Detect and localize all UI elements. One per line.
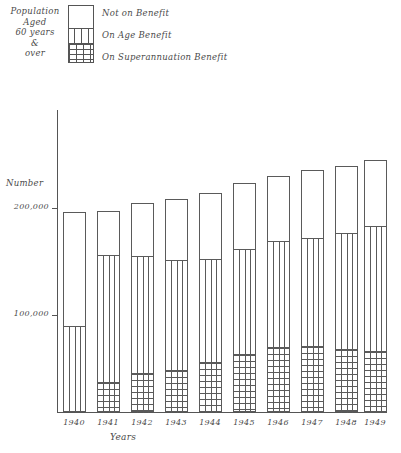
- bar-1946: [267, 176, 290, 412]
- bar-1949-segment-age-benefit: [365, 226, 386, 351]
- bar-1943-segment-superannuation-benefit: [166, 370, 187, 413]
- bar-1943-segment-age-benefit: [166, 260, 187, 370]
- x-axis-label-1949: 1949: [355, 418, 395, 427]
- bar-1948-segment-age-benefit: [336, 233, 357, 349]
- bar-1942-segment-superannuation-benefit: [132, 373, 153, 413]
- y-axis-title: Number: [6, 178, 43, 188]
- bar-1942: [131, 203, 154, 412]
- bar-1945-segment-age-benefit: [234, 249, 255, 354]
- bar-1946-segment-not-on-benefit: [268, 177, 289, 241]
- bar-1947-segment-superannuation-benefit: [302, 346, 323, 413]
- bar-1941-segment-age-benefit: [98, 255, 119, 382]
- bar-1941-segment-not-on-benefit: [98, 212, 119, 255]
- bar-1948-segment-not-on-benefit: [336, 167, 357, 233]
- bar-1944-segment-superannuation-benefit: [200, 362, 221, 413]
- bar-1941: [97, 211, 120, 412]
- bar-1945: [233, 183, 256, 412]
- chart-plot-area: 200,000 100,000 Number Years 19401941194…: [0, 0, 401, 453]
- bar-1948: [335, 166, 358, 412]
- bar-1941-segment-superannuation-benefit: [98, 382, 119, 413]
- bar-1943-segment-not-on-benefit: [166, 200, 187, 260]
- bar-1949: [364, 160, 387, 412]
- bar-1940-segment-age-benefit: [64, 326, 85, 412]
- y-tick-label-200000: 200,000: [14, 202, 49, 211]
- x-axis-title: Years: [110, 432, 136, 442]
- bar-1949-segment-superannuation-benefit: [365, 351, 386, 413]
- bar-1947-segment-age-benefit: [302, 238, 323, 346]
- bar-1940-segment-not-on-benefit: [64, 213, 85, 326]
- bar-1944-segment-not-on-benefit: [200, 194, 221, 259]
- bar-1948-segment-superannuation-benefit: [336, 349, 357, 413]
- bar-1942-segment-age-benefit: [132, 256, 153, 373]
- y-tick-mark-200000: [52, 208, 58, 209]
- bar-1945-segment-not-on-benefit: [234, 184, 255, 249]
- bar-1945-segment-superannuation-benefit: [234, 354, 255, 413]
- bar-1942-segment-not-on-benefit: [132, 204, 153, 256]
- y-tick-label-100000: 100,000: [14, 309, 49, 318]
- bar-1946-segment-superannuation-benefit: [268, 347, 289, 413]
- bar-1947: [301, 170, 324, 412]
- bar-1947-segment-not-on-benefit: [302, 171, 323, 238]
- bar-1949-segment-not-on-benefit: [365, 161, 386, 226]
- bar-1944-segment-age-benefit: [200, 259, 221, 362]
- bar-1943: [165, 199, 188, 412]
- y-tick-mark-100000: [52, 315, 58, 316]
- bar-1944: [199, 193, 222, 412]
- y-axis-line: [57, 110, 58, 413]
- bar-1946-segment-age-benefit: [268, 241, 289, 347]
- bar-1940: [63, 212, 86, 412]
